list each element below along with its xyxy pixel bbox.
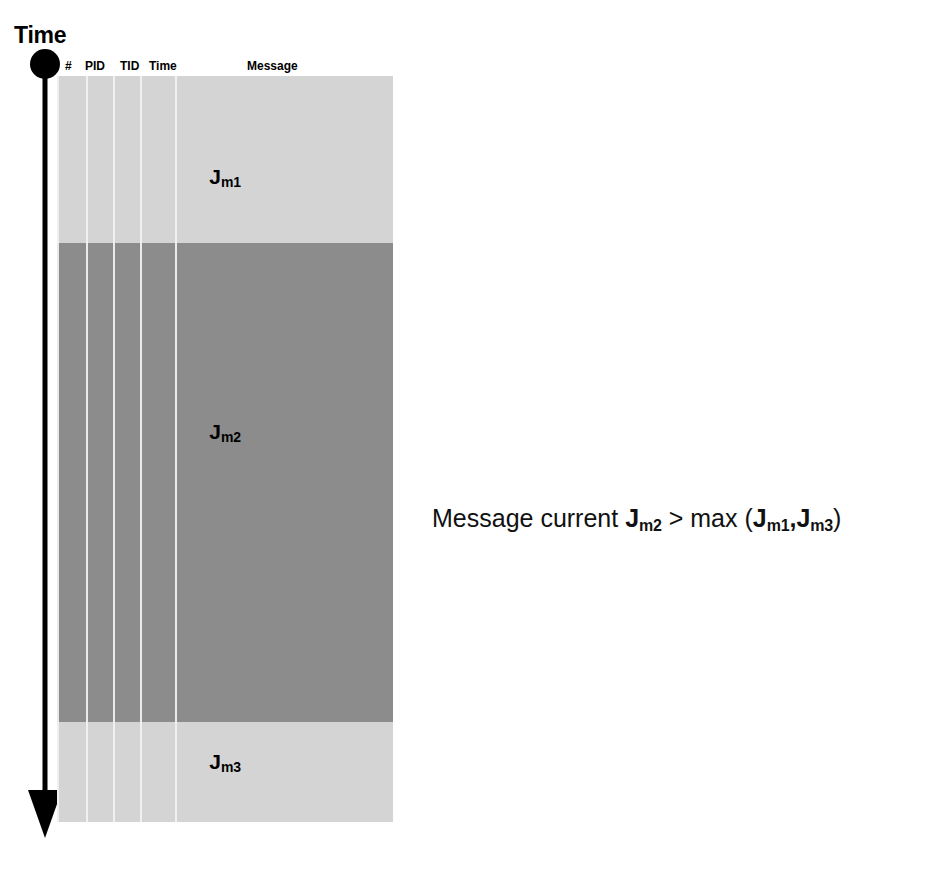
caption-arg2-subscript: m3 — [810, 517, 833, 534]
band-label-jm3-base: J — [209, 750, 221, 773]
caption-text: Message current Jm2 > max (Jm1,Jm3) — [432, 505, 841, 533]
caption-arg1-subscript: m1 — [767, 517, 790, 534]
column-header-tid: TID — [120, 56, 139, 76]
time-axis-title: Time — [14, 24, 66, 47]
caption-term-subscript: m2 — [639, 517, 662, 534]
band-label-jm3: Jm3 — [57, 751, 393, 772]
column-separator-4 — [140, 76, 142, 822]
column-separator-3 — [113, 76, 115, 822]
band-label-jm1-subscript: m1 — [221, 174, 241, 190]
message-band-jm2 — [57, 243, 393, 722]
column-separator-2 — [86, 76, 88, 822]
caption-arg2-base: J — [796, 504, 810, 532]
column-header-time: Time — [149, 56, 177, 76]
caption-operator: > max ( — [662, 504, 753, 532]
caption-lead: Message current — [432, 504, 625, 532]
column-separator-5 — [175, 76, 177, 822]
trace-table-body: Jm1 Jm2 Jm3 — [57, 76, 393, 822]
column-header-pid: PID — [85, 56, 105, 76]
column-separator-1 — [57, 76, 59, 822]
band-label-jm3-subscript: m3 — [221, 759, 241, 775]
caption-arg1-base: J — [753, 504, 767, 532]
table-header: # PID TID Time Message — [57, 56, 393, 76]
caption-close-paren: ) — [833, 504, 841, 532]
band-label-jm2-base: J — [209, 420, 221, 443]
column-header-num: # — [65, 56, 72, 76]
band-label-jm2: Jm2 — [57, 421, 393, 442]
band-label-jm2-subscript: m2 — [221, 429, 241, 445]
column-header-message: Message — [247, 56, 298, 76]
message-band-jm1 — [57, 76, 393, 243]
diagram-canvas: Time # PID TID Time Message Jm1 Jm2 Jm3 … — [0, 0, 938, 872]
caption-term-base: J — [625, 504, 639, 532]
band-label-jm1-base: J — [209, 165, 221, 188]
band-label-jm1: Jm1 — [57, 166, 393, 187]
